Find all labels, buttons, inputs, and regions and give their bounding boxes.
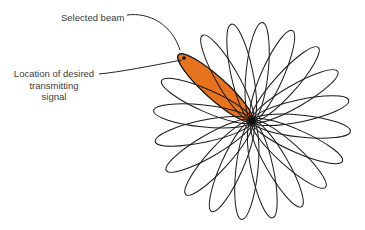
location-label-line-1: Location of desired — [5, 68, 103, 80]
desired-signal-location-dot — [182, 56, 186, 60]
location-label-line-3: signal — [5, 91, 103, 103]
selected-beam-leader-line — [127, 15, 180, 50]
beam-petal — [231, 120, 263, 221]
beam-pattern-diagram — [0, 0, 365, 230]
beam-petal — [242, 26, 302, 125]
desired-signal-location-label: Location of desired transmitting signal — [5, 68, 103, 103]
signal-location-leader-line — [99, 60, 182, 74]
beam-petal — [251, 110, 352, 142]
beam-petal — [202, 117, 262, 216]
selected-beam-label: Selected beam — [61, 12, 124, 24]
beam-petal — [241, 21, 273, 122]
beam-petal — [248, 111, 347, 171]
beam-center-hub — [249, 118, 256, 125]
location-label-line-2: transmitting — [5, 80, 103, 92]
